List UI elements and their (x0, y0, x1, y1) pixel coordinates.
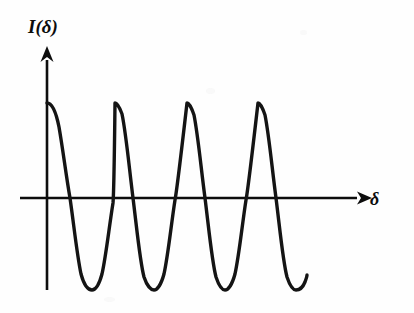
interferogram-figure: I(δ) δ (0, 0, 414, 313)
y-axis-label: I(δ) (27, 16, 58, 38)
arrow-up-icon (41, 46, 54, 62)
plot-canvas: I(δ) δ (0, 0, 414, 313)
x-axis-label: δ (370, 189, 379, 209)
interferogram-curve (47, 103, 307, 290)
